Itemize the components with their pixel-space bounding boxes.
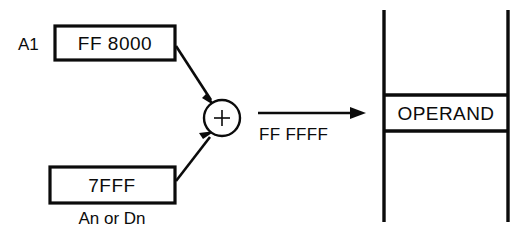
operand-b-value: 7FFF — [88, 175, 135, 196]
result-bus-value: FF FFFF — [259, 125, 328, 144]
operand-b-caption: An or Dn — [78, 209, 145, 228]
result-arrow-head-icon — [350, 107, 366, 119]
memory-operand-label: OPERAND — [398, 103, 495, 124]
register-label-a1: A1 — [18, 35, 39, 54]
diagram-svg: A1 FF 8000 7FFF An or Dn FF FFFF OPERAND — [0, 0, 527, 247]
result-bus-arrow — [258, 107, 366, 119]
diagram-canvas: A1 FF 8000 7FFF An or Dn FF FFFF OPERAND — [0, 0, 527, 247]
arrow-a-shaft — [176, 46, 211, 100]
arrow-operand-a-to-adder — [176, 46, 215, 106]
operand-a-value: FF 8000 — [78, 33, 152, 54]
arrow-operand-b-to-adder — [176, 131, 215, 181]
arrow-b-shaft — [176, 137, 210, 181]
adder-node — [204, 100, 240, 136]
